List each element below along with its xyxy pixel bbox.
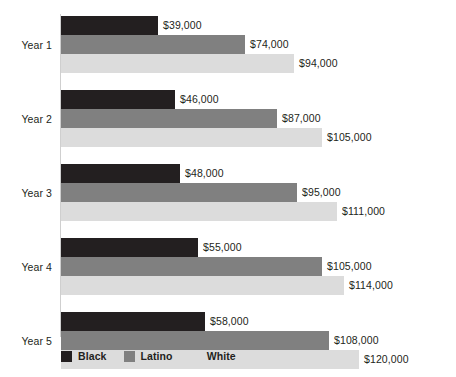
bar-value-label: $46,000 <box>180 90 219 109</box>
category-label: Year 5 <box>0 335 52 347</box>
legend-item-black[interactable]: Black <box>61 350 107 362</box>
chart-legend: BlackLatinoWhite <box>61 348 236 364</box>
bar-row: $105,000 <box>61 128 456 147</box>
bar-black[interactable] <box>61 90 175 109</box>
category-label: Year 3 <box>0 187 52 199</box>
bar-value-label: $58,000 <box>210 312 249 331</box>
bar-latino[interactable] <box>61 183 297 202</box>
bar-white[interactable] <box>61 54 294 73</box>
plot-area: Year 1$39,000$74,000$94,000Year 2$46,000… <box>0 0 456 340</box>
bar-chart: Year 1$39,000$74,000$94,000Year 2$46,000… <box>0 0 456 377</box>
bar-value-label: $48,000 <box>185 164 224 183</box>
bar-value-label: $111,000 <box>342 202 385 221</box>
legend-swatch-icon <box>124 351 135 362</box>
category-label: Year 4 <box>0 261 52 273</box>
bar-row: $39,000 <box>61 16 456 35</box>
bar-value-label: $120,000 <box>364 350 409 369</box>
bar-row: $58,000 <box>61 312 456 331</box>
bar-white[interactable] <box>61 276 344 295</box>
bar-white[interactable] <box>61 202 337 221</box>
bar-white[interactable] <box>61 128 322 147</box>
bar-value-label: $114,000 <box>349 276 393 295</box>
bar-latino[interactable] <box>61 35 245 54</box>
bar-value-label: $74,000 <box>250 35 289 54</box>
bar-row: $94,000 <box>61 54 456 73</box>
bar-value-label: $87,000 <box>282 109 321 128</box>
bar-black[interactable] <box>61 312 205 331</box>
category-label: Year 2 <box>0 113 52 125</box>
bar-latino[interactable] <box>61 109 277 128</box>
legend-label: White <box>207 350 236 362</box>
bar-row: $87,000 <box>61 109 456 128</box>
bar-value-label: $55,000 <box>203 238 242 257</box>
bar-value-label: $95,000 <box>302 183 341 202</box>
bar-row: $105,000 <box>61 257 456 276</box>
legend-swatch-icon <box>61 351 72 362</box>
bar-row: $48,000 <box>61 164 456 183</box>
bar-latino[interactable] <box>61 257 322 276</box>
bar-black[interactable] <box>61 16 158 35</box>
bar-black[interactable] <box>61 238 198 257</box>
bar-row: $74,000 <box>61 35 456 54</box>
bar-value-label: $39,000 <box>163 16 202 35</box>
bar-row: $55,000 <box>61 238 456 257</box>
legend-label: Latino <box>141 350 173 362</box>
bar-value-label: $94,000 <box>299 54 338 73</box>
bar-group: Year 4$55,000$105,000$114,000 <box>0 238 456 295</box>
bar-value-label: $105,000 <box>327 257 372 276</box>
legend-item-latino[interactable]: Latino <box>124 350 173 362</box>
bar-row: $95,000 <box>61 183 456 202</box>
category-label: Year 1 <box>0 39 52 51</box>
bar-value-label: $105,000 <box>327 128 372 147</box>
legend-label: Black <box>78 350 107 362</box>
bar-value-label: $108,000 <box>334 331 379 350</box>
legend-item-white[interactable]: White <box>190 350 236 362</box>
legend-swatch-icon <box>190 351 201 362</box>
bar-row: $46,000 <box>61 90 456 109</box>
bar-row: $111,000 <box>61 202 456 221</box>
bar-group: Year 3$48,000$95,000$111,000 <box>0 164 456 221</box>
bar-black[interactable] <box>61 164 180 183</box>
bar-row: $114,000 <box>61 276 456 295</box>
bar-group: Year 1$39,000$74,000$94,000 <box>0 16 456 73</box>
bar-group: Year 2$46,000$87,000$105,000 <box>0 90 456 147</box>
